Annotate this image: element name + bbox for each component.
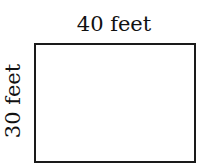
diagram-canvas: 40 feet 30 feet: [0, 0, 206, 168]
width-label: 40 feet: [0, 14, 206, 35]
height-label: 30 feet: [3, 61, 24, 141]
rectangle-shape: [34, 43, 196, 163]
